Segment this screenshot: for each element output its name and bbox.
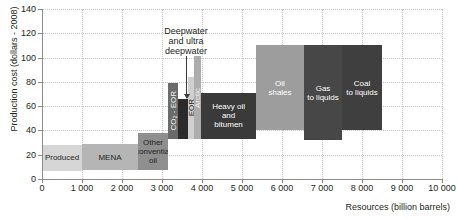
gridline-vertical — [442, 9, 444, 179]
y-axis-tick — [38, 9, 42, 10]
x-axis-tick-label: 8 000 — [351, 184, 374, 193]
x-axis-tick-label: 0 — [39, 184, 44, 193]
chart-bar: Heavy oil and bitumen — [201, 93, 256, 139]
x-axis-tick-label: 6 000 — [271, 184, 294, 193]
y-axis-tick — [38, 33, 42, 34]
chart-bar: MENA — [82, 144, 138, 171]
y-axis-tick-label: 60 — [0, 102, 36, 111]
x-axis-tick-label: 5 000 — [231, 184, 254, 193]
gridline-horizontal — [42, 33, 442, 35]
x-axis-title: Resources (billion barrels) — [250, 202, 450, 212]
chart-bar: CO₂ - EOR — [168, 83, 178, 139]
cost-supply-curve-chart: ProducedMENAOther convential oilCO₂ - EO… — [0, 0, 459, 219]
y-axis-tick-label: 120 — [0, 29, 36, 38]
y-axis-tick-label: 100 — [0, 54, 36, 63]
chart-bar-label: Gas to liquids — [306, 84, 340, 102]
y-axis-tick-label: 80 — [0, 78, 36, 87]
y-axis-tick-label: 20 — [0, 151, 36, 160]
x-axis-tick-label: 1 000 — [71, 184, 94, 193]
chart-bar: Arctic — [194, 56, 201, 139]
chart-bar: Coal to liquids — [342, 45, 382, 130]
x-axis-tick-label: 4 000 — [191, 184, 214, 193]
chart-bar: Gas to liquids — [304, 45, 342, 140]
scan-artifact — [0, 0, 459, 7]
chart-bar: Other convential oil — [138, 133, 168, 171]
gridline-horizontal — [42, 82, 442, 84]
y-axis-tick — [38, 82, 42, 83]
y-axis-title: Production cost (dollars - 2008) — [9, 3, 19, 135]
x-axis-tick-label: 2 000 — [111, 184, 134, 193]
chart-bar: Oil shales — [256, 45, 304, 130]
chart-bar-label: Produced — [44, 153, 80, 162]
chart-bar: Produced — [42, 145, 82, 171]
y-axis-tick — [38, 58, 42, 59]
y-axis-tick — [38, 106, 42, 107]
x-axis-tick-label: 9 000 — [391, 184, 414, 193]
chart-bar-label: MENA — [97, 153, 122, 162]
gridline-horizontal — [42, 58, 442, 60]
x-axis-tick-label: 7 000 — [311, 184, 334, 193]
chart-bar-label: Arctic — [194, 88, 201, 108]
y-axis-tick-label: 40 — [0, 126, 36, 135]
y-axis-tick — [38, 130, 42, 131]
y-axis-tick-label: 140 — [0, 5, 36, 14]
y-axis-tick — [38, 155, 42, 156]
y-axis-line — [42, 9, 43, 179]
chart-bar-label: Heavy oil and bitumen — [211, 102, 246, 129]
x-axis-tick-label: 10 000 — [428, 184, 456, 193]
chart-bar-label: CO₂ - EOR — [168, 91, 178, 131]
deepwater-annotation-arrow — [186, 56, 187, 98]
y-axis-tick — [38, 179, 42, 180]
gridline-horizontal — [42, 9, 442, 11]
chart-bar — [178, 99, 188, 139]
chart-bar-label: Coal to liquids — [345, 79, 379, 97]
y-axis-tick-label: 0 — [0, 175, 36, 184]
x-axis-tick-label: 3 000 — [151, 184, 174, 193]
chart-bar-label: Oil shales — [267, 79, 292, 97]
chart-bar-label: Other convential oil — [138, 138, 168, 165]
deepwater-annotation-text: Deepwater and ultra deepwater — [140, 26, 232, 56]
plot-area: ProducedMENAOther convential oilCO₂ - EO… — [42, 9, 442, 179]
